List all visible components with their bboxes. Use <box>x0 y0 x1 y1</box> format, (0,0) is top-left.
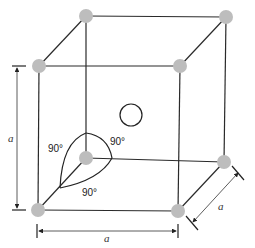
front-face <box>38 66 180 211</box>
angle-label-bottom: 90° <box>82 187 97 198</box>
atom-top-front-left <box>32 59 46 73</box>
horizontal-dimension-label: a <box>104 232 110 244</box>
atom-top-back-right <box>219 10 233 24</box>
atom-top-back-left <box>79 9 93 23</box>
depth-dimension-label: a <box>218 200 224 212</box>
atom-bottom-back-right <box>217 155 231 169</box>
back-face <box>86 16 226 162</box>
angle-label-right: 90° <box>110 136 125 147</box>
cube-svg: a a a 90° 90° 90° <box>0 0 255 248</box>
atom-top-front-right <box>173 59 187 73</box>
vertical-dimension-label: a <box>8 132 14 144</box>
unit-cell-diagram: a a a 90° 90° 90° <box>0 0 255 248</box>
angle-label-left: 90° <box>48 143 63 154</box>
atom-bottom-front-right <box>171 204 185 218</box>
vertical-dimension <box>12 66 26 210</box>
center-position-marker <box>120 104 142 126</box>
depth-dimension <box>186 166 244 230</box>
atom-bottom-back-left <box>79 151 93 165</box>
atom-bottom-front-left <box>31 203 45 217</box>
